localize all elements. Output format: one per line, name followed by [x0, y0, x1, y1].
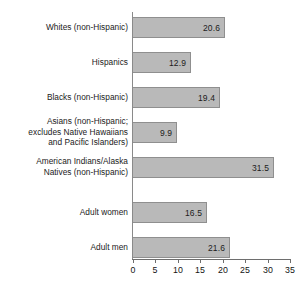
category-label: Adult women — [80, 207, 128, 218]
bar-value-label: 19.4 — [198, 93, 215, 102]
x-axis-tick — [200, 259, 201, 263]
bar: 16.5 — [133, 202, 207, 223]
bar: 31.5 — [133, 157, 274, 178]
x-axis-tick-label: 15 — [188, 265, 212, 275]
category-label: Whites (non-Hispanic) — [46, 22, 128, 33]
x-axis-tick — [223, 259, 224, 263]
bar-value-label: 31.5 — [252, 163, 269, 172]
bar-value-label: 20.6 — [203, 23, 220, 32]
category-label: Blacks (non-Hispanic) — [47, 92, 128, 103]
bar-value-label: 21.6 — [208, 243, 225, 252]
x-axis-tick-label: 30 — [256, 265, 280, 275]
x-axis-tick — [268, 259, 269, 263]
bar: 20.6 — [133, 17, 225, 38]
category-label: Adult men — [90, 242, 128, 253]
x-axis-tick — [155, 259, 156, 263]
x-axis-tick-label: 5 — [143, 265, 167, 275]
bar: 12.9 — [133, 52, 191, 73]
bar-value-label: 9.9 — [160, 128, 172, 137]
bar-chart: 20.612.919.49.931.516.521.6 Whites (non-… — [0, 0, 304, 288]
category-label: Hispanics — [92, 57, 128, 68]
bar: 21.6 — [133, 237, 230, 258]
x-axis-tick-label: 25 — [233, 265, 257, 275]
plot-area: 20.612.919.49.931.516.521.6 Whites (non-… — [0, 0, 304, 288]
x-axis-tick — [178, 259, 179, 263]
x-axis-tick-label: 20 — [211, 265, 235, 275]
x-axis-tick-label: 35 — [278, 265, 302, 275]
bar: 19.4 — [133, 87, 220, 108]
x-axis-tick-label: 0 — [121, 265, 145, 275]
x-axis-tick — [245, 259, 246, 263]
x-axis-tick-label: 10 — [166, 265, 190, 275]
category-label: Asians (non-Hispanic; excludes Native Ha… — [28, 116, 128, 148]
x-axis-tick — [290, 259, 291, 263]
bar-value-label: 12.9 — [169, 58, 186, 67]
category-label: American Indians/Alaska Natives (non-His… — [36, 156, 128, 177]
bar-value-label: 16.5 — [185, 208, 202, 217]
bar: 9.9 — [133, 122, 177, 143]
x-axis-tick — [133, 259, 134, 263]
